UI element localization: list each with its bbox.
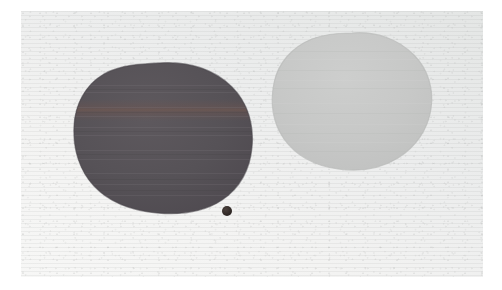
small-dot bbox=[222, 206, 232, 216]
dark-blob bbox=[64, 55, 260, 221]
light-blob bbox=[264, 25, 440, 179]
image-canvas bbox=[0, 0, 502, 290]
